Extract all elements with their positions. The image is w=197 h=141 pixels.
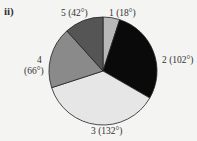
slice-label-5: 5 (42°) [61, 9, 88, 19]
slice-label-4: 4 [37, 56, 42, 66]
slice-label-3: 3 (132°) [91, 127, 123, 137]
slice-label-1: 1 (18°) [109, 9, 136, 19]
slice-label-4-value: (66°) [24, 67, 44, 77]
slice-label-2: 2 (102°) [162, 56, 194, 66]
